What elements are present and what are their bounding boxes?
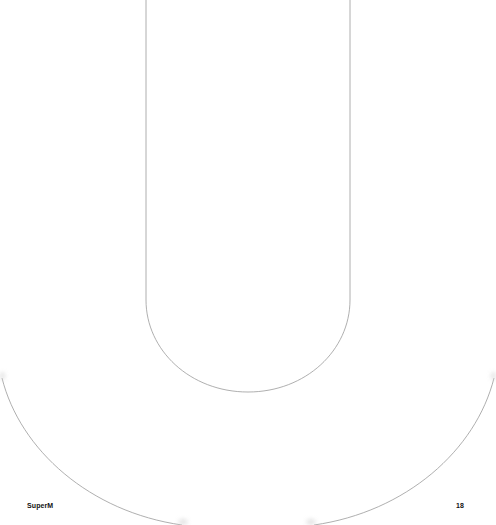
shadow-mark-left [0,372,5,380]
shadow-mark-right [491,372,496,380]
shadow-mark-bottom-left [178,519,188,525]
document-page: SuperM 18 [0,0,496,525]
footer-brand: SuperM [27,502,53,509]
letter-u-outline [0,0,496,525]
page-number: 18 [456,502,464,509]
shadow-mark-bottom-right [306,519,316,525]
